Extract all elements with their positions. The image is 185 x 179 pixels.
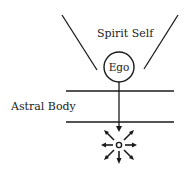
- spirit-self-label: Spirit Self: [97, 27, 154, 40]
- funnel-left-line: [62, 15, 97, 70]
- spirit-ego-astral-diagram: Spirit Self Ego Astral Body: [0, 0, 185, 179]
- funnel-right-line: [144, 15, 178, 69]
- connector-arrowhead-icon: [116, 126, 122, 132]
- ego-label: Ego: [109, 61, 130, 73]
- starburst-icon: [101, 130, 137, 164]
- astral-body-label: Astral Body: [10, 100, 77, 113]
